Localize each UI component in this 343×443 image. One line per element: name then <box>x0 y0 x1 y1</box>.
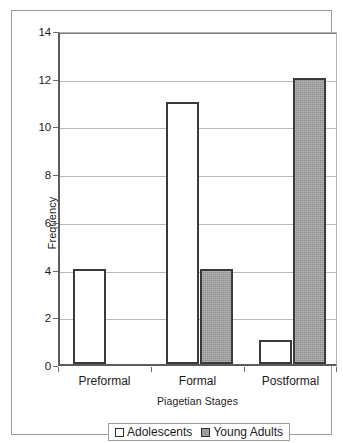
x-axis-tick-3 <box>336 367 337 372</box>
bar-formal-young-adults <box>200 269 234 364</box>
x-axis: PreformalFormalPostformal Piagetian Stag… <box>58 367 337 415</box>
y-axis-label-6: 6 <box>17 217 51 229</box>
legend-swatch-young-adults <box>201 428 210 437</box>
bar-preformal-adolescents <box>73 269 107 364</box>
plot-area <box>58 32 337 366</box>
x-axis-title: Piagetian Stages <box>58 395 337 407</box>
chart-figure: Frequency 02468101214 PreformalFormalPos… <box>0 0 343 443</box>
y-axis-tick-2 <box>53 318 58 319</box>
y-axis-tick-10 <box>53 127 58 128</box>
x-axis-label-formal: Formal <box>179 374 216 388</box>
y-axis-label-14: 14 <box>17 26 51 38</box>
y-axis-tick-4 <box>53 271 58 272</box>
bar-postformal-adolescents <box>259 340 293 364</box>
legend-swatch-adolescents <box>115 428 124 437</box>
y-axis-label-8: 8 <box>17 169 51 181</box>
chart-outer-frame: Frequency 02468101214 PreformalFormalPos… <box>11 10 332 435</box>
y-axis-tick-14 <box>53 32 58 33</box>
y-axis-label-0: 0 <box>17 360 51 372</box>
legend-item-young-adults[interactable]: Young Adults <box>201 425 283 439</box>
y-axis-label-4: 4 <box>17 265 51 277</box>
y-axis-label-10: 10 <box>17 121 51 133</box>
x-axis-tick-2 <box>244 367 245 372</box>
legend-item-adolescents[interactable]: Adolescents <box>115 425 192 439</box>
bar-formal-adolescents <box>166 102 200 364</box>
x-axis-label-preformal: Preformal <box>78 374 130 388</box>
y-axis-tick-6 <box>53 223 58 224</box>
bar-postformal-young-adults <box>293 78 327 364</box>
y-axis-tick-8 <box>53 175 58 176</box>
x-axis-label-postformal: Postformal <box>262 374 319 388</box>
x-axis-tick-1 <box>151 367 152 372</box>
legend-label-adolescents: Adolescents <box>127 425 192 439</box>
y-axis-tick-12 <box>53 80 58 81</box>
legend-label-young-adults: Young Adults <box>213 425 283 439</box>
x-axis-tick-0 <box>58 367 59 372</box>
chart-legend: AdolescentsYoung Adults <box>108 423 290 441</box>
y-axis-label-2: 2 <box>17 312 51 324</box>
gridline-14 <box>60 33 336 34</box>
y-axis-label-12: 12 <box>17 74 51 86</box>
